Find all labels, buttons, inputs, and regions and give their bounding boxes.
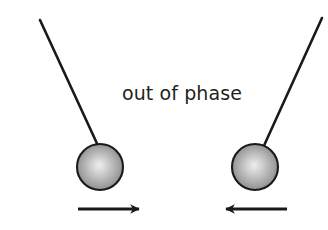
diagram-canvas: out of phase	[0, 0, 328, 230]
pendulum-diagram: out of phase	[0, 0, 328, 230]
right-pendulum-bob	[232, 144, 278, 190]
left-pendulum-bob	[77, 144, 123, 190]
caption-label: out of phase	[122, 82, 242, 104]
